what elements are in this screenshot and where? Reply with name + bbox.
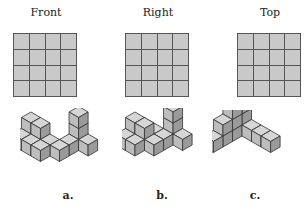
grid-cell [270,81,285,96]
grid-cell [14,81,29,96]
grid-cell [126,50,141,65]
grid-cell [30,34,45,49]
grid-cell [61,50,76,65]
grid-cell [158,66,173,81]
grid-cell [142,50,157,65]
grid-cell [14,50,29,65]
grid-cell [61,34,76,49]
right-view-grid [125,33,189,97]
view-label-top: Top [235,6,304,19]
grid-cell [238,81,253,96]
option-label-b: b. [152,189,172,202]
grid-cell [173,66,188,81]
grid-cell [142,34,157,49]
grid-cell [46,66,61,81]
grid-cell [285,66,300,81]
view-label-right: Right [123,6,193,19]
cube-figure-b [122,108,202,180]
grid-cell [270,34,285,49]
grid-cell [173,34,188,49]
grid-cell [30,50,45,65]
grid-cell [238,66,253,81]
option-label-a: a. [58,189,78,202]
grid-cell [158,34,173,49]
grid-cell [254,66,269,81]
grid-cell [46,81,61,96]
grid-cell [30,81,45,96]
front-view-grid [13,33,77,97]
view-label-front: Front [11,6,81,19]
grid-cell [61,66,76,81]
grid-cell [142,81,157,96]
grid-cell [46,34,61,49]
grid-cell [126,34,141,49]
grid-cell [158,81,173,96]
grid-cell [285,50,300,65]
grid-cell [270,66,285,81]
grid-cell [254,34,269,49]
grid-cell [126,66,141,81]
grid-cell [126,81,141,96]
grid-cell [238,34,253,49]
grid-cell [173,50,188,65]
grid-cell [46,50,61,65]
grid-cell [14,34,29,49]
grid-cell [238,50,253,65]
cube-figure-a [20,108,115,180]
grid-cell [270,50,285,65]
grid-cell [254,81,269,96]
grid-cell [30,66,45,81]
grid-cell [285,81,300,96]
grid-cell [142,66,157,81]
grid-cell [14,66,29,81]
grid-cell [254,50,269,65]
grid-cell [173,81,188,96]
option-label-c: c. [245,189,265,202]
grid-cell [285,34,300,49]
grid-cell [158,50,173,65]
top-view-grid [237,33,301,97]
grid-cell [61,81,76,96]
cube-figure-c [212,110,292,182]
